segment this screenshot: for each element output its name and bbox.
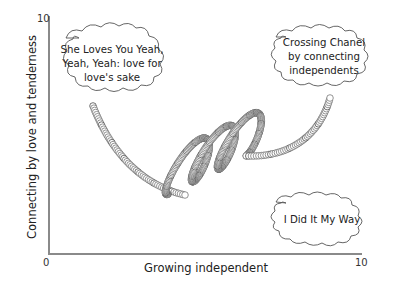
x-axis-min-tick: 0 [43, 257, 49, 268]
cloud-text-she-loves-you: She Loves You Yeah, Yeah, Yeah: love for… [61, 43, 164, 85]
x-axis-line [48, 253, 362, 255]
cloud-line: I Did It My Way [284, 213, 361, 227]
coiled-spring-path [90, 95, 334, 199]
y-axis-line [48, 16, 50, 255]
cloud-line: Yeah, Yeah: love for [61, 57, 164, 71]
y-axis-max-tick: 10 [37, 13, 50, 24]
diagram-canvas: 10 0 10 Connecting by love and tendernes… [0, 0, 404, 290]
cloud-text-i-did-it-my-way: I Did It My Way [284, 213, 361, 227]
cloud-text-crossing-chanel: Crossing Chanel by connecting independen… [283, 36, 365, 78]
cloud-line: She Loves You Yeah, [61, 43, 164, 57]
cloud-line: love's sake [61, 71, 164, 85]
cloud-line: independents [283, 64, 365, 78]
x-axis-title: Growing independent [144, 261, 268, 275]
cloud-line: by connecting [283, 50, 365, 64]
cloud-line: Crossing Chanel [283, 36, 365, 50]
x-axis-max-tick: 10 [355, 257, 368, 268]
y-axis-title: Connecting by love and tenderness [25, 35, 39, 239]
